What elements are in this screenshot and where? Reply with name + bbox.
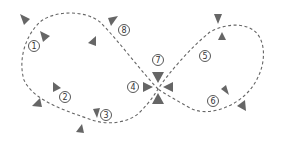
- label-1: 1: [29, 41, 40, 52]
- label-3: 3: [101, 110, 112, 121]
- label-4: 4: [128, 82, 139, 93]
- direction-marker-icon: [163, 82, 173, 92]
- direction-marker-icon: [32, 98, 42, 107]
- label-8-text: 8: [121, 26, 126, 35]
- label-7-text: 7: [155, 56, 160, 65]
- label-3-text: 3: [103, 111, 108, 120]
- label-8: 8: [119, 25, 130, 36]
- direction-marker-icon: [221, 85, 229, 95]
- label-6-text: 6: [210, 97, 215, 106]
- direction-marker-icon: [218, 32, 226, 40]
- label-2: 2: [60, 92, 71, 103]
- direction-marker-icon: [214, 14, 222, 24]
- label-2-text: 2: [62, 93, 67, 102]
- label-6: 6: [208, 96, 219, 107]
- label-5-text: 5: [202, 52, 207, 61]
- label-7: 7: [153, 55, 164, 66]
- direction-marker-icon: [53, 82, 61, 92]
- direction-marker-icon: [20, 14, 30, 25]
- direction-marker-icon: [143, 82, 153, 92]
- label-5: 5: [200, 51, 211, 62]
- direction-marker-icon: [88, 36, 96, 46]
- label-1-text: 1: [31, 42, 36, 51]
- direction-marker-icon: [152, 72, 164, 83]
- direction-marker-icon: [237, 100, 246, 111]
- label-4-text: 4: [130, 83, 135, 92]
- direction-marker-icon: [93, 108, 100, 118]
- direction-marker-icon: [76, 124, 84, 133]
- direction-marker-icon: [40, 31, 50, 42]
- figure-eight-diagram: 1 2 3 4 5 6 7 8: [0, 0, 294, 151]
- direction-marker-icon: [108, 16, 118, 26]
- figure-eight-path: [22, 13, 264, 123]
